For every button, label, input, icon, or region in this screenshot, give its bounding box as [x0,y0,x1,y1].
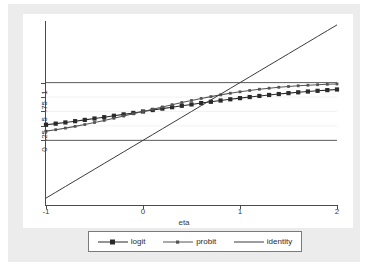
marker-logit [238,96,242,100]
marker-probit [64,127,67,130]
y-axis-tick-labels: 0.25.5.751 [18,0,44,277]
marker-logit [83,118,87,122]
y-tick-mark [41,140,45,141]
plot-area [46,22,337,205]
marker-probit [307,84,310,87]
marker-probit [297,84,300,87]
marker-probit [229,92,232,95]
marker-probit [103,119,106,122]
marker-probit [316,83,319,86]
marker-logit [228,97,232,101]
marker-probit [248,89,251,92]
marker-probit [239,90,242,93]
marker-probit [336,83,339,86]
legend-item-identity[interactable]: identity [234,237,292,247]
marker-probit [132,112,135,115]
marker-probit [210,95,213,98]
legend-key-logit-icon [98,237,128,247]
marker-probit [83,123,86,126]
x-axis-line [45,205,338,206]
x-tick-mark [240,205,241,209]
chart-screenshot: 0.25.5.751 -1012 eta logit probit identi… [0,0,368,277]
y-tick-label: 1 [40,81,49,103]
y-tick-mark [41,97,45,98]
marker-logit [63,120,67,124]
marker-logit [92,116,96,120]
marker-logit [189,102,193,106]
x-tick-mark [143,205,144,209]
marker-probit [180,101,183,104]
marker-probit [258,88,261,91]
marker-probit [277,86,280,89]
marker-probit [268,87,271,90]
marker-probit [287,85,290,88]
marker-probit [161,106,164,109]
y-tick-mark [41,126,45,127]
y-tick-mark [41,83,45,84]
marker-probit [142,110,145,113]
marker-logit [296,90,300,94]
legend-label-identity: identity [267,238,292,246]
legend-key-identity-icon [234,237,264,247]
marker-logit [257,94,261,98]
marker-logit [325,88,329,92]
marker-probit [326,83,329,86]
marker-logit [180,104,184,108]
marker-probit [151,108,154,111]
legend-label-probit: probit [196,238,216,246]
series-line-logit [46,89,337,124]
marker-logit [286,91,290,95]
x-tick-mark [337,205,338,209]
marker-probit [171,103,174,106]
legend-item-probit[interactable]: probit [163,237,216,247]
marker-logit [267,93,271,97]
marker-logit [73,119,77,123]
marker-probit [54,128,57,131]
marker-probit [200,97,203,100]
marker-logit [54,122,58,126]
marker-logit [316,89,320,93]
plot-svg [46,22,337,205]
marker-logit [219,98,223,102]
x-tick-mark [46,205,47,209]
y-tick-mark [41,111,45,112]
x-axis-title: eta [0,218,368,227]
legend-key-probit-icon [163,237,193,247]
marker-probit [113,117,116,120]
marker-probit [93,121,96,124]
series-line-probit [46,84,337,131]
marker-logit [277,92,281,96]
marker-probit [190,99,193,102]
marker-logit [102,115,106,119]
marker-probit [74,125,77,128]
marker-logit [335,87,339,91]
marker-probit [122,115,125,118]
chart-legend[interactable]: logit probit identity [88,231,302,252]
legend-item-logit[interactable]: logit [98,237,146,247]
marker-logit [248,95,252,99]
marker-logit [306,89,310,93]
legend-label-logit: logit [131,238,146,246]
